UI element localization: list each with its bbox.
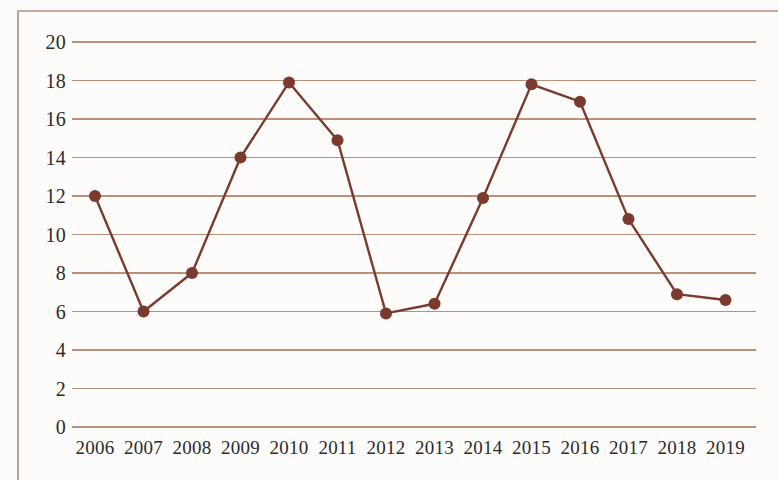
data-point-marker (380, 307, 392, 319)
data-series-layer (0, 0, 778, 480)
data-point-marker (671, 288, 683, 300)
data-point-marker (574, 96, 586, 108)
data-point-marker (186, 267, 198, 279)
data-point-marker (720, 294, 732, 306)
plot-area: 02468101214161820 2006200720082009201020… (0, 0, 778, 480)
data-point-marker (332, 134, 344, 146)
data-point-marker (283, 76, 295, 88)
data-point-marker (477, 192, 489, 204)
data-point-marker (623, 213, 635, 225)
data-point-marker (526, 78, 538, 90)
series-marker-group (89, 76, 732, 319)
chart-container: 02468101214161820 2006200720082009201020… (0, 0, 778, 480)
data-point-marker (429, 298, 441, 310)
data-point-marker (235, 152, 247, 164)
series-line (95, 82, 726, 313)
data-point-marker (89, 190, 101, 202)
data-point-marker (138, 306, 150, 318)
